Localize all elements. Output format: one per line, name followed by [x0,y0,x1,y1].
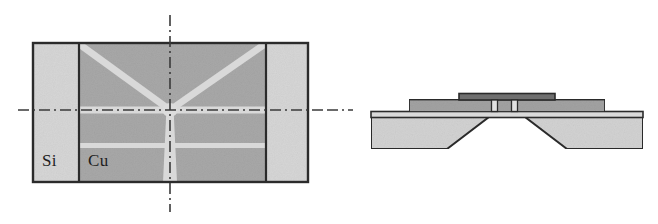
metal-layer-mid [409,100,605,113]
figure-root: Si Cu [0,0,658,224]
cross-section-drawing [329,0,658,224]
plan-view-panel: Si Cu [0,0,329,224]
plan-view-drawing [0,0,329,224]
slot-right [512,100,518,112]
slot-left [492,100,498,112]
substrate-base [371,117,489,149]
section-view-panel [329,0,658,224]
plan-region-silicon-right [266,43,308,182]
si-label: Si [42,152,57,169]
substrate-base-right [525,117,643,149]
cap-layer-dark [459,94,555,101]
cu-label: Cu [88,152,108,169]
